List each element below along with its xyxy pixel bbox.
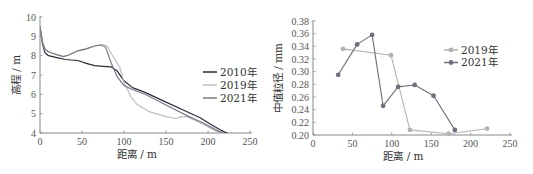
legend: 2010年2019年2021年 — [203, 66, 257, 104]
x-tick-label: 250 — [503, 138, 518, 149]
series-line — [40, 27, 221, 133]
chart-figure: 05010015020025045678910距离 / m高程 / m2010年… — [0, 0, 533, 174]
data-point-marker — [341, 46, 346, 51]
y-axis-label: 中值粒径 / mm — [272, 43, 284, 113]
x-tick-label: 100 — [117, 136, 132, 147]
legend-label: 2021年 — [461, 56, 498, 68]
data-point-marker — [389, 53, 394, 58]
y-tick-label: 9 — [31, 31, 36, 42]
x-axis-label: 距离 / m — [117, 148, 157, 160]
y-tick-label: 0.34 — [292, 41, 310, 52]
x-tick-label: 50 — [77, 136, 87, 147]
elevation-profile-chart: 05010015020025045678910距离 / m高程 / m2010年… — [10, 12, 258, 161]
y-tick-label: 0.30 — [292, 66, 310, 77]
x-tick-label: 150 — [159, 136, 174, 147]
x-axis-label: 距离 / m — [383, 150, 423, 162]
y-tick-label: 0.38 — [292, 16, 310, 27]
y-axis-label: 高程 / m — [10, 55, 22, 95]
data-point-marker — [355, 42, 360, 47]
legend-label: 2010年 — [220, 66, 257, 78]
series-line — [40, 27, 229, 134]
y-tick-label: 4 — [31, 128, 36, 139]
data-point-marker — [336, 72, 341, 77]
data-point-marker — [446, 131, 451, 136]
data-point-marker — [452, 128, 457, 133]
data-point-marker — [431, 93, 436, 98]
legend: 2019年2021年 — [444, 44, 498, 69]
x-tick-label: 0 — [311, 138, 316, 149]
y-tick-label: 0.26 — [292, 92, 310, 103]
y-tick-label: 0.20 — [292, 130, 310, 141]
y-tick-label: 0.24 — [292, 104, 310, 115]
data-point-marker — [396, 84, 401, 89]
legend-label: 2019年 — [461, 44, 498, 56]
data-point-marker — [485, 126, 490, 131]
legend-label: 2021年 — [220, 92, 257, 104]
series-line — [338, 35, 455, 130]
y-tick-label: 7 — [31, 70, 36, 81]
y-tick-label: 0.32 — [292, 54, 310, 65]
y-tick-label: 0.22 — [292, 117, 310, 128]
data-point-marker — [381, 103, 386, 108]
y-tick-label: 0.36 — [292, 28, 310, 39]
data-point-marker — [370, 33, 375, 38]
x-tick-label: 250 — [243, 136, 258, 147]
x-tick-label: 150 — [424, 138, 439, 149]
x-tick-label: 0 — [38, 136, 43, 147]
y-tick-label: 5 — [31, 108, 36, 119]
y-tick-label: 8 — [31, 50, 36, 61]
x-tick-label: 200 — [201, 136, 216, 147]
x-tick-label: 100 — [384, 138, 399, 149]
legend-label: 2019年 — [220, 79, 257, 91]
series-line — [40, 27, 225, 134]
x-tick-label: 50 — [347, 138, 357, 149]
y-tick-label: 0.28 — [292, 79, 310, 90]
y-tick-label: 6 — [31, 89, 36, 100]
y-tick-label: 10 — [26, 12, 36, 23]
x-tick-label: 200 — [463, 138, 478, 149]
data-point-marker — [412, 83, 417, 88]
median-grain-size-chart: 0501001502002500.200.220.240.260.280.300… — [272, 16, 518, 163]
data-point-marker — [408, 128, 413, 133]
